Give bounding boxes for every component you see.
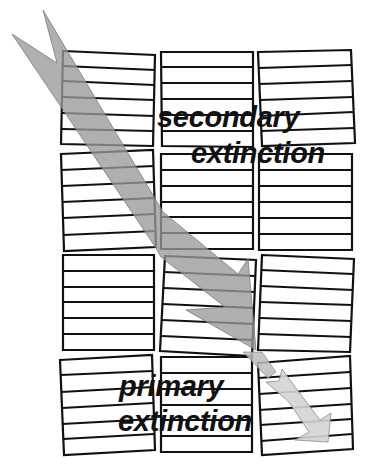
secondary-extinction-label-line1: secondary [157,101,302,133]
mosaic-block-r3c3 [258,255,354,352]
mosaic-block-r3c1 [63,255,154,350]
secondary-extinction-label-line2: extinction [191,137,325,169]
primary-extinction-label-line2: extinction [118,405,252,437]
primary-extinction-label-line1: primary [118,370,225,402]
mosaic-extinction-diagram: secondary extinction primary extinction [0,0,373,472]
